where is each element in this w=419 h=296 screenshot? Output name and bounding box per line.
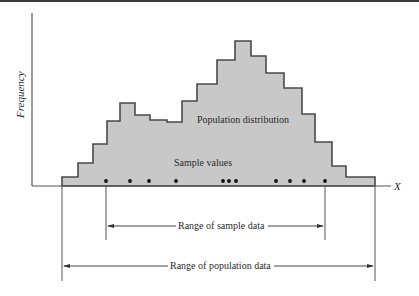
arrowhead-left-icon <box>107 224 114 228</box>
histogram-diagram: Frequency X Population distribution Samp… <box>0 0 419 296</box>
sample-values-label: Sample values <box>174 157 232 168</box>
arrowhead-right-icon <box>317 224 324 228</box>
distribution-label: Population distribution <box>197 114 289 125</box>
x-axis-label: X <box>393 180 402 192</box>
arrowhead-right-icon <box>367 264 374 268</box>
population-range-label: Range of population data <box>170 260 271 271</box>
arrowhead-left-icon <box>63 264 70 268</box>
sample-range-label: Range of sample data <box>178 220 265 231</box>
y-axis-label: Frequency <box>14 71 26 119</box>
